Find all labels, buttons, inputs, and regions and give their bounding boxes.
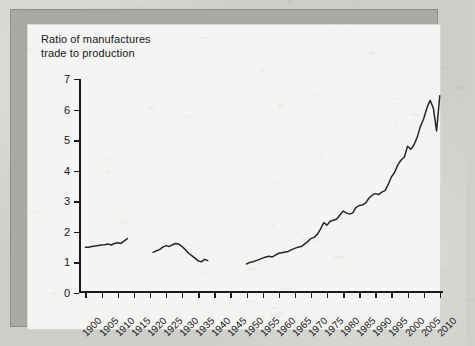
paper-speck [440,67,451,69]
y-axis-label: 4 [64,165,70,176]
paper-speck [280,159,283,160]
paper-speck [173,53,181,55]
paper-speck [141,205,143,206]
paper-speck [394,123,398,126]
paper-speck [352,3,357,7]
x-axis-tick [327,293,328,298]
paper-speck [255,274,261,275]
paper-speck [328,29,335,30]
y-axis-label: 2 [64,226,70,237]
x-axis-tick [424,293,425,298]
x-axis-tick [166,293,167,298]
x-axis-tick [279,293,280,298]
paper-speck [245,33,249,34]
paper-speck [103,157,112,159]
paper-speck [419,302,422,304]
x-axis-tick [182,293,183,298]
paper-speck [393,98,400,99]
paper-speck [303,7,306,10]
paper-speck [382,188,388,189]
paper-speck [338,274,343,275]
paper-speck [201,127,207,129]
y-axis-tick [74,171,79,172]
paper-speck [302,237,309,241]
paper-speck [385,262,388,266]
paper-speck [281,214,291,216]
x-axis-tick [134,293,135,298]
paper-speck [56,171,58,175]
figure-panel: Ratio of manufactures trade to productio… [27,24,441,330]
paper-speck [401,176,403,179]
paper-speck [269,4,274,7]
series-line [247,96,440,264]
x-axis-tick [295,293,296,298]
paper-speck [97,38,105,40]
paper-speck [320,155,323,159]
y-axis-tick [74,232,79,233]
y-axis-label: 6 [64,104,70,115]
paper-speck [204,235,205,236]
figure-frame: Ratio of manufactures trade to productio… [10,9,438,327]
plot-area: 0123456719001905191019151920192519301935… [79,79,443,293]
paper-speck [457,86,465,90]
paper-speck [121,220,128,224]
paper-speck [272,225,275,228]
paper-speck [93,320,104,322]
paper-speck [20,124,28,127]
paper-speck [464,298,475,301]
paper-speck [427,315,431,318]
paper-speck [196,37,207,39]
x-axis-tick [408,293,409,298]
paper-speck [134,57,138,60]
paper-speck [247,268,258,271]
paper-speck [447,324,457,327]
paper-speck [410,113,420,116]
x-axis-tick [118,293,119,298]
x-axis-tick [311,293,312,298]
paper-speck [346,30,349,32]
series-svg [79,79,443,293]
x-axis-tick [247,293,248,298]
x-axis-tick [102,293,103,298]
paper-speck [259,322,265,326]
paper-speck [23,47,31,50]
x-axis-tick [214,293,215,298]
paper-speck [50,292,56,296]
paper-speck [370,260,376,261]
paper-speck [270,210,277,212]
paper-speck [440,269,446,273]
paper-speck [98,67,109,68]
paper-speck [183,219,191,221]
y-axis-tick [74,201,79,202]
paper-speck [416,24,425,25]
x-axis-tick [85,293,86,298]
paper-speck [422,53,426,54]
paper-speck [288,0,292,3]
x-axis-tick [359,293,360,298]
x-axis-tick [375,293,376,298]
paper-speck [49,179,51,181]
y-axis-tick [74,262,79,263]
x-axis-tick [230,293,231,298]
paper-speck [272,307,278,309]
y-axis-label: 5 [64,135,70,146]
paper-speck [14,25,22,29]
paper-speck [276,182,282,184]
paper-speck [283,288,291,291]
paper-speck [197,271,206,275]
paper-speck [6,294,15,295]
paper-speck [37,267,40,268]
paper-speck [148,106,154,110]
paper-speck [309,94,320,97]
paper-speck [179,104,188,106]
y-axis-tick [74,140,79,141]
paper-speck [346,13,350,15]
paper-speck [260,69,266,72]
x-axis-tick [343,293,344,298]
paper-speck [145,228,147,232]
y-axis-tick [74,293,79,294]
paper-speck [384,116,388,119]
paper-speck [71,74,75,76]
paper-speck [15,196,17,198]
paper-speck [257,99,260,102]
